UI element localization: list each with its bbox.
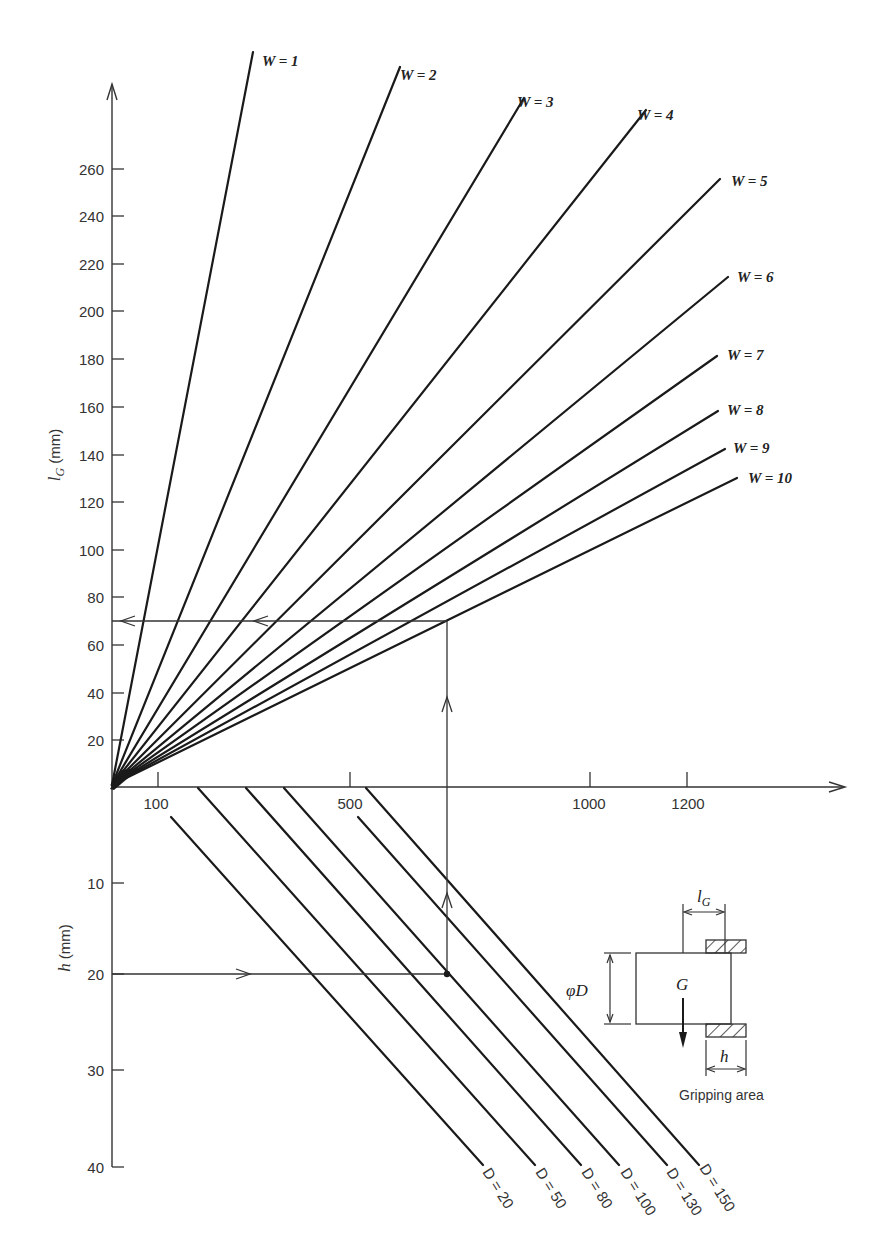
y-tick-label: 120 — [79, 494, 104, 511]
inset-lg-label: lG — [697, 887, 711, 909]
y-tick-label: 40 — [87, 685, 104, 702]
x-ticks — [158, 772, 687, 787]
w-label: W = 2 — [400, 67, 437, 83]
d-line-50 — [198, 788, 535, 1165]
y-lower-ticks — [112, 883, 124, 1167]
d-line-100 — [284, 788, 619, 1165]
x-tick-label: 1200 — [671, 795, 704, 812]
y-upper-axis-title: lG (mm) — [45, 429, 67, 482]
d-label: D = 80 — [578, 1165, 616, 1212]
y-tick-label: 60 — [87, 637, 104, 654]
inset-phid-label: φD — [566, 981, 588, 1000]
w-line-10 — [112, 478, 737, 785]
w-line-2 — [112, 67, 400, 785]
w-line-5 — [112, 179, 720, 785]
x-tick-label: 500 — [337, 795, 362, 812]
w-label: W = 6 — [737, 269, 774, 285]
h-tick-label: 30 — [87, 1062, 104, 1079]
d-line-20 — [171, 817, 483, 1165]
w-line-4 — [112, 110, 646, 785]
x-tick-labels: 100 500 1000 1200 — [143, 795, 704, 812]
gripper-jaw-bottom — [706, 1024, 746, 1037]
y-tick-label: 260 — [79, 161, 104, 178]
w-label: W = 5 — [731, 173, 768, 189]
d-line-130 — [358, 817, 667, 1165]
w-label: W = 3 — [517, 94, 554, 110]
w-line-7 — [112, 356, 717, 785]
w-label: W = 1 — [262, 53, 299, 69]
w-label: W = 8 — [727, 402, 764, 418]
y-tick-label: 200 — [79, 303, 104, 320]
w-line-1 — [112, 52, 253, 785]
inset-g-label: G — [676, 975, 688, 994]
y-tick-label: 20 — [87, 732, 104, 749]
inset-caption: Gripping area — [679, 1087, 764, 1103]
w-line-6 — [112, 277, 728, 785]
y-tick-label: 100 — [79, 542, 104, 559]
svg-text:lG (mm): lG (mm) — [45, 429, 67, 482]
w-label: W = 4 — [637, 107, 674, 123]
h-tick-label: 10 — [87, 875, 104, 892]
gravity-arrow-icon — [679, 1032, 687, 1048]
w-line-9 — [112, 449, 725, 785]
d-label: D = 100 — [617, 1165, 659, 1219]
w-label: W = 10 — [748, 470, 793, 486]
y-tick-label: 160 — [79, 399, 104, 416]
d-line-80 — [246, 788, 581, 1165]
y-lower-axis-title: h (mm) — [55, 924, 74, 972]
d-label: D = 50 — [532, 1165, 570, 1212]
h-tick-label: 40 — [87, 1159, 104, 1176]
y-upper-ticks — [112, 169, 124, 740]
d-label: D = 20 — [479, 1165, 517, 1212]
w-label: W = 7 — [727, 347, 764, 363]
y-tick-label: 220 — [79, 256, 104, 273]
y-tick-label: 80 — [87, 589, 104, 606]
w-line-3 — [112, 98, 524, 785]
gripping-area-inset: lG φD G h Gripping area — [566, 887, 764, 1103]
d-series-lines — [171, 788, 699, 1165]
y-tick-label: 140 — [79, 447, 104, 464]
x-tick-label: 1000 — [572, 795, 605, 812]
w-series-lines — [112, 52, 737, 785]
h-tick-label: 20 — [87, 966, 104, 983]
y-lower-tick-labels: 10 20 30 40 — [87, 875, 104, 1176]
nomogram-chart: 20 40 60 80 100 120 140 160 180 200 220 … — [0, 0, 884, 1256]
inset-h-label: h — [720, 1047, 729, 1066]
intersection-dot — [444, 971, 450, 977]
w-labels: W = 1 W = 2 W = 3 W = 4 W = 5 W = 6 W = … — [262, 53, 793, 486]
x-tick-label: 100 — [143, 795, 168, 812]
y-tick-label: 180 — [79, 351, 104, 368]
svg-text:h (mm): h (mm) — [55, 924, 74, 972]
gripper-jaw-top — [706, 940, 746, 953]
y-tick-label: 240 — [79, 208, 104, 225]
w-line-8 — [112, 411, 718, 785]
y-upper-tick-labels: 20 40 60 80 100 120 140 160 180 200 220 … — [79, 161, 104, 749]
w-label: W = 9 — [733, 440, 770, 456]
d-labels: D = 20 D = 50 D = 80 D = 100 D = 130 D =… — [479, 1161, 738, 1219]
